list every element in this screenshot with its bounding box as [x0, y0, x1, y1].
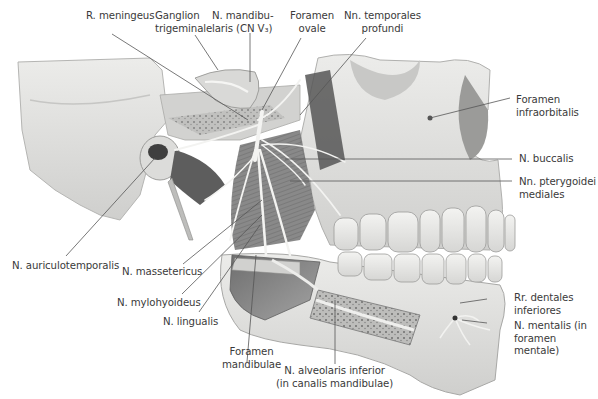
- label-text: trigeminale: [155, 23, 212, 36]
- label-r-meningeus: R. meningeus: [86, 10, 154, 23]
- label-text: N. mylohyoideus: [117, 297, 201, 310]
- label-nn-pterygoidei-mediales: Nn. pterygoidei mediales: [519, 176, 596, 201]
- label-text: N. lingualis: [163, 316, 218, 329]
- label-n-lingualis: N. lingualis: [163, 316, 218, 329]
- label-text: laris (CN V₃): [212, 23, 274, 36]
- label-text: N. massetericus: [122, 266, 202, 279]
- label-text: Foramen: [290, 10, 334, 23]
- label-text: Foramen: [222, 346, 281, 359]
- label-n-alveolaris-inferior: N. alveolaris inferior (in canalis mandi…: [276, 365, 393, 390]
- label-n-mylohyoideus: N. mylohyoideus: [117, 297, 201, 310]
- label-text: Rr. dentales: [514, 292, 573, 305]
- label-text: N. auriculotemporalis: [12, 260, 119, 273]
- label-text: mentale): [514, 345, 587, 358]
- label-text: mediales: [519, 189, 596, 202]
- label-foramen-infraorbitalis: Foramen infraorbitalis: [516, 94, 579, 119]
- label-ganglion-trigeminale: Ganglion trigeminale: [155, 10, 212, 35]
- label-text: N. alveolaris inferior: [276, 365, 393, 378]
- label-text: Nn. temporales: [344, 10, 421, 23]
- label-text: foramen: [514, 333, 587, 346]
- label-text: Foramen: [516, 94, 579, 107]
- label-text: N. buccalis: [519, 153, 573, 166]
- label-text: mandibulae: [222, 359, 281, 372]
- label-n-auriculotemporalis: N. auriculotemporalis: [12, 260, 119, 273]
- label-nn-temporales-profundi: Nn. temporales profundi: [344, 10, 421, 35]
- figure-canvas: R. meningeus Ganglion trigeminale N. man…: [0, 0, 598, 399]
- label-text: inferiores: [514, 305, 573, 318]
- label-n-mentalis: N. mentalis (in foramen mentale): [514, 320, 587, 358]
- label-text: profundi: [344, 23, 421, 36]
- label-text: N. mandibu-: [212, 10, 274, 23]
- label-text: R. meningeus: [86, 10, 154, 23]
- label-rr-dentales-inferiores: Rr. dentales inferiores: [514, 292, 573, 317]
- label-n-buccalis: N. buccalis: [519, 153, 573, 166]
- label-text: Nn. pterygoidei: [519, 176, 596, 189]
- label-text: ovale: [290, 23, 334, 36]
- label-n-massetericus: N. massetericus: [122, 266, 202, 279]
- label-foramen-mandibulae: Foramen mandibulae: [222, 346, 281, 371]
- label-text: N. mentalis (in: [514, 320, 587, 333]
- label-text: (in canalis mandibulae): [276, 378, 393, 391]
- anatomy-illustration: [0, 0, 598, 399]
- label-foramen-ovale: Foramen ovale: [290, 10, 334, 35]
- label-text: Ganglion: [155, 10, 212, 23]
- label-n-mandibularis: N. mandibu- laris (CN V₃): [212, 10, 274, 35]
- label-text: infraorbitalis: [516, 107, 579, 120]
